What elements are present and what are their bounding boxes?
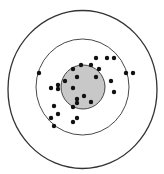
shot-dot — [52, 104, 56, 108]
shot-dot — [71, 120, 75, 124]
shot-dot — [124, 71, 128, 75]
shot-dot — [97, 67, 101, 71]
shot-dot — [109, 79, 113, 83]
shot-dot — [89, 63, 93, 67]
target-diagram — [0, 0, 164, 174]
shot-dot — [89, 100, 93, 104]
shot-dot — [105, 56, 109, 60]
shot-dot — [71, 105, 75, 109]
shot-dot — [49, 116, 53, 120]
shot-dot — [56, 87, 60, 91]
shot-dot — [56, 83, 60, 87]
shot-dot — [75, 101, 79, 105]
shot-dot — [75, 75, 79, 79]
shot-dot — [79, 63, 83, 67]
shot-dot — [49, 86, 53, 90]
shot-dot — [56, 112, 60, 116]
shot-dot — [82, 94, 86, 98]
shot-dot — [71, 86, 75, 90]
bullseye — [61, 65, 105, 109]
shot-dot — [112, 90, 116, 94]
shot-dot — [94, 75, 98, 79]
shot-dot — [75, 97, 79, 101]
shot-dot — [63, 79, 67, 83]
rings — [8, 11, 157, 169]
shot-dot — [112, 56, 116, 60]
shot-dot — [52, 124, 56, 128]
shot-dot — [94, 56, 98, 60]
shot-dot — [37, 71, 41, 75]
shot-dot — [75, 116, 79, 120]
shot-dot — [131, 71, 135, 75]
shot-dot — [71, 67, 75, 71]
